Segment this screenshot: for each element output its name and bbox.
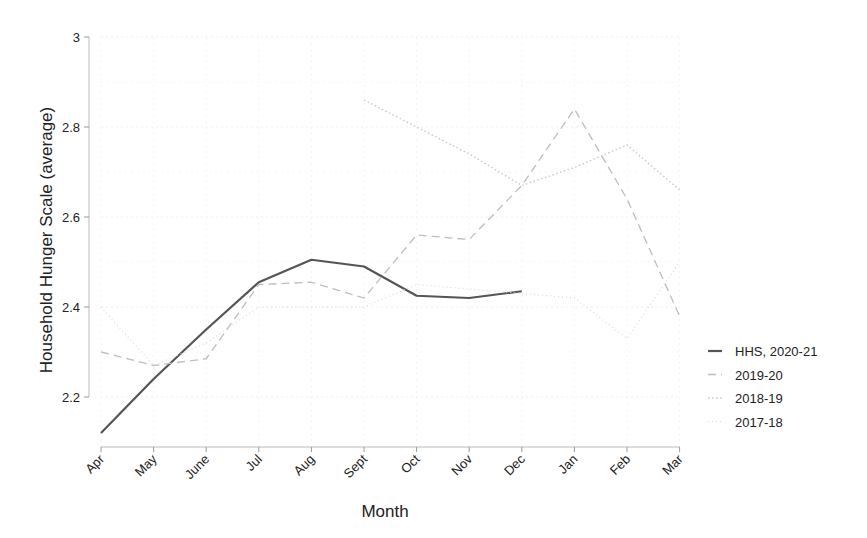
legend-label: 2019-20: [735, 368, 783, 383]
x-tick-label: Nov: [448, 451, 475, 478]
x-tick-label: Sept: [341, 451, 371, 481]
series-line: [101, 109, 680, 366]
gridlines: [101, 37, 680, 447]
x-tick-label: Dec: [501, 451, 528, 478]
y-tick-label: 2.2: [62, 390, 80, 405]
legend: HHS, 2020-212019-202018-192017-18: [708, 344, 817, 430]
y-tick-label: 2.4: [62, 300, 80, 315]
legend-label: HHS, 2020-21: [735, 344, 817, 359]
x-tick-label: Jan: [555, 452, 580, 477]
series-line: [101, 262, 680, 366]
line-chart: 2.22.42.62.83AprMayJuneJulAugSeptOctNovD…: [0, 0, 867, 538]
y-axis-title: Household Hunger Scale (average): [37, 107, 56, 374]
series-line: [101, 260, 522, 433]
y-tick-label: 2.8: [62, 120, 80, 135]
x-tick-label: May: [132, 451, 160, 479]
legend-label: 2017-18: [735, 415, 783, 430]
x-tick-label: June: [182, 452, 213, 483]
y-tick-label: 3: [73, 30, 80, 45]
legend-label: 2018-19: [735, 391, 783, 406]
x-tick-label: Jul: [243, 451, 265, 473]
axes: 2.22.42.62.83AprMayJuneJulAugSeptOctNovD…: [62, 30, 686, 482]
x-tick-label: Mar: [659, 451, 686, 478]
y-tick-label: 2.6: [62, 210, 80, 225]
x-tick-label: Feb: [607, 452, 633, 478]
data-lines: [101, 100, 680, 433]
x-axis-title: Month: [361, 502, 408, 521]
x-tick-label: Aug: [291, 452, 318, 479]
x-tick-label: Oct: [398, 451, 423, 476]
x-tick-label: Apr: [82, 451, 107, 476]
